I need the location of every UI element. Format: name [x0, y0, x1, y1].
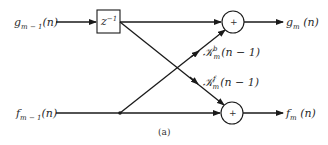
output-label-g: gm (n) [286, 16, 319, 31]
bottom-adder: + [221, 102, 243, 124]
input-label-g: gm − 1(n) [14, 16, 58, 31]
lattice-stage-diagram: gm − 1(n) z−1 fm − 1(n) + + gm (n) [0, 0, 328, 145]
backward-gain-arrow [191, 51, 199, 57]
svg-text:+: + [229, 108, 237, 118]
backward-gain-label: 𝒦bm(n − 1) [203, 45, 260, 61]
figure-caption: (a) [158, 127, 170, 137]
forward-gain-path [120, 22, 224, 105]
backward-gain-path [120, 30, 225, 113]
delay-block: z−1 [97, 10, 120, 33]
input-label-f: fm − 1(n) [15, 107, 57, 122]
forward-gain-arrow [190, 77, 198, 84]
svg-text:+: + [230, 17, 238, 27]
forward-gain-label: 𝒦fm(n − 1) [203, 75, 259, 91]
top-adder: + [222, 11, 244, 33]
output-label-f: fm (n) [285, 107, 316, 122]
